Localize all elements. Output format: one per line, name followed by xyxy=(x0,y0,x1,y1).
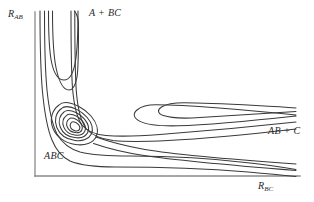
contour-well-6 xyxy=(70,122,80,131)
y-axis-label: RAB xyxy=(8,8,23,21)
contour-exit-6 xyxy=(94,144,297,171)
contour-entrance-6 xyxy=(75,11,296,141)
contour-exit-3 xyxy=(134,105,296,126)
contour-entrance-2 xyxy=(45,11,297,170)
x-axis-subscript: BC xyxy=(264,185,273,193)
contour-plot-canvas xyxy=(0,0,314,202)
y-axis-subscript: AB xyxy=(14,13,23,21)
contour-entrance-5 xyxy=(71,11,296,136)
x-axis-label: RBC xyxy=(258,180,273,193)
contour-line-group xyxy=(40,11,296,177)
reactants-label: A + BC xyxy=(89,7,121,18)
pes-contour-figure: RAB RBC A + BC AB + C ABC xyxy=(0,0,314,202)
intermediate-label: ABC xyxy=(44,150,64,161)
products-label: AB + C xyxy=(268,125,300,136)
